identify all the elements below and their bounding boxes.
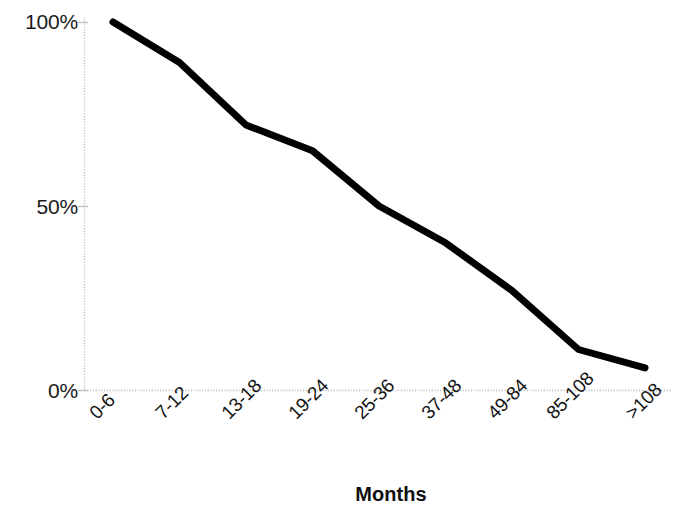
x-tick-label-85-108: 85-108 bbox=[543, 368, 597, 422]
x-tick-label-7-12: 7-12 bbox=[152, 383, 191, 422]
x-tick-label-0-6: 0-6 bbox=[86, 390, 118, 422]
x-axis-tick-labels: 0-6 7-12 13-18 19-24 25-36 37-48 49-84 8… bbox=[0, 0, 676, 514]
x-axis-title-text: Months bbox=[355, 483, 427, 506]
x-tick-label-37-48: 37-48 bbox=[418, 376, 465, 423]
x-tick-label-19-24: 19-24 bbox=[285, 376, 332, 423]
x-tick-label-49-84: 49-84 bbox=[484, 376, 531, 423]
x-tick-label-25-36: 25-36 bbox=[351, 376, 398, 423]
x-axis-title: Months bbox=[0, 483, 676, 506]
x-tick-label-gt-108: >108 bbox=[622, 380, 665, 423]
chart-container: 100% 50% 0% 0-6 7-12 13-18 19-24 25-36 3… bbox=[0, 0, 676, 514]
x-tick-label-13-18: 13-18 bbox=[218, 376, 265, 423]
